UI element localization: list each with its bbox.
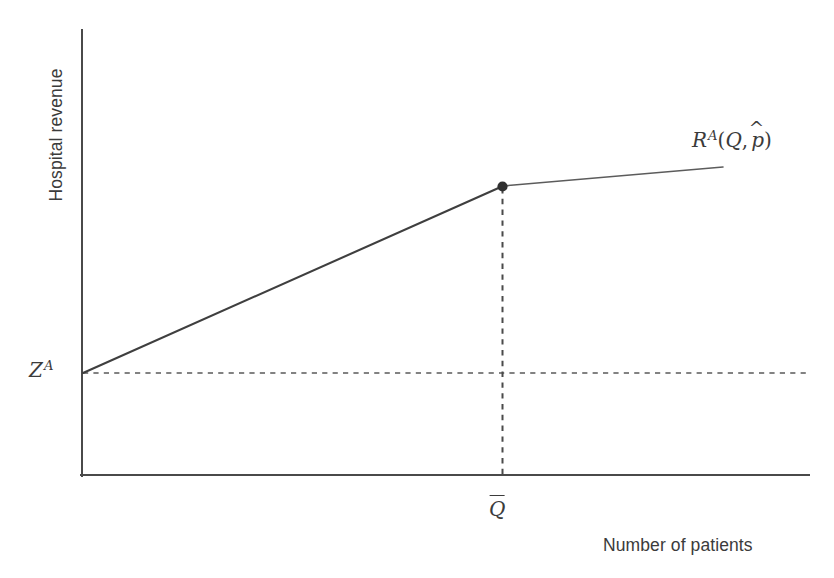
x-tick-label-capacity: Q <box>489 497 505 521</box>
curve-label-comma: , <box>742 128 748 152</box>
curve-label-arg-quantity: Q <box>725 128 741 152</box>
revenue-segment-flat <box>503 167 723 186</box>
curve-label-superscript: A <box>708 128 718 143</box>
curve-label-close-paren: ) <box>764 128 772 152</box>
curve-label-base: R <box>692 128 707 152</box>
circumflex-accent: ^ <box>749 120 764 138</box>
curve-label-arg-price: ^p <box>750 128 764 152</box>
y-axis-label: Hospital revenue <box>46 20 67 250</box>
intercept-label: ZA <box>29 358 53 382</box>
x-axis-label: Number of patients <box>603 535 753 556</box>
intercept-label-superscript: A <box>44 358 54 373</box>
intercept-label-base: Z <box>29 358 43 382</box>
q-bar-wrapper: Q <box>489 497 505 521</box>
curve-label: RA(Q, ^p) <box>692 128 772 152</box>
x-tick-label-capacity-base: Q <box>489 497 505 521</box>
overbar-accent <box>490 495 505 497</box>
kink-point-marker <box>497 181 507 191</box>
revenue-segment-steep <box>83 186 503 373</box>
figure-canvas: Hospital revenue Number of patients ZA R… <box>0 0 834 578</box>
chart-plot <box>0 0 834 578</box>
